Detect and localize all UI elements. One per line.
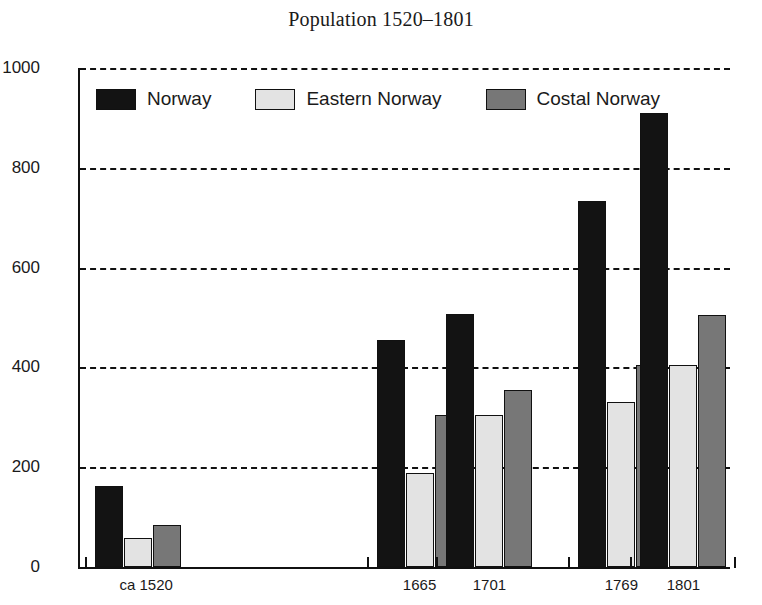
- bar: [446, 314, 474, 567]
- x-axis-tick-label: 1801: [667, 576, 700, 593]
- bar: [95, 486, 123, 567]
- gridline: [80, 168, 730, 170]
- bar: [669, 365, 697, 567]
- bar: [377, 340, 405, 567]
- bar: [607, 402, 635, 567]
- x-axis-tick-label: 1769: [605, 576, 638, 593]
- gridline: [80, 367, 730, 369]
- x-axis-tick-mark: [85, 557, 87, 568]
- bar: [698, 315, 726, 567]
- y-axis-tick-label: 400: [0, 357, 40, 377]
- y-axis-tick-label: 0: [0, 557, 40, 577]
- y-axis-tick-label: 600: [0, 258, 40, 278]
- y-axis-tick-label: 800: [0, 158, 40, 178]
- y-axis-tick-label: 200: [0, 457, 40, 477]
- x-axis-tick-label: ca 1520: [120, 576, 173, 593]
- x-axis-tick-label: 1701: [473, 576, 506, 593]
- x-axis-tick-mark: [367, 557, 369, 568]
- bar: [475, 415, 503, 567]
- bar: [406, 473, 434, 567]
- population-bar-chart: Population 1520–1801 NorwayEastern Norwa…: [0, 0, 762, 605]
- x-axis-tick-mark: [630, 557, 632, 568]
- bar: [153, 525, 181, 567]
- bar: [578, 201, 606, 567]
- x-axis-tick-label: 1665: [403, 576, 436, 593]
- y-axis-tick-label: 1000: [0, 58, 40, 78]
- plot-area: 02004006008001000ca 15201665170117691801: [78, 68, 730, 569]
- gridline: [80, 68, 730, 70]
- bar: [124, 538, 152, 567]
- x-axis-tick-mark: [568, 557, 570, 568]
- gridline: [80, 268, 730, 270]
- x-axis-tick-mark: [734, 557, 736, 568]
- chart-title: Population 1520–1801: [0, 8, 762, 31]
- x-axis-tick-mark: [436, 557, 438, 568]
- bar: [504, 390, 532, 567]
- bar: [640, 113, 668, 567]
